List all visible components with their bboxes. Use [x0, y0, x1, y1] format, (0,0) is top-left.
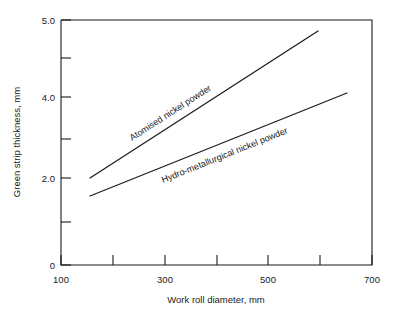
chart-figure: 5.0 4.0 2.0 0 100 300 500 700 Work roll …	[0, 0, 395, 312]
y-tick-label-4-0: 4.0	[42, 92, 55, 103]
y-tick-label-0: 0	[50, 260, 55, 271]
series-label-lower: Hydro-metallurgical nickel powder	[160, 125, 289, 184]
plot-frame	[61, 20, 372, 265]
y-tick-label-2-0: 2.0	[42, 173, 55, 184]
x-tick-label-700: 700	[364, 274, 380, 285]
y-axis-title: Green strip thickness, mm	[11, 87, 22, 197]
x-tick-label-100: 100	[53, 274, 69, 285]
x-axis-title: Work roll diameter, mm	[167, 294, 265, 305]
series-atomised-nickel-powder: Atomised nickel powder	[90, 31, 318, 178]
x-axis-ticks	[61, 255, 372, 265]
x-tick-label-500: 500	[260, 274, 276, 285]
series-label-upper: Atomised nickel powder	[128, 83, 213, 143]
x-axis-tick-labels: 100 300 500 700	[53, 274, 380, 285]
y-axis-ticks	[61, 20, 71, 265]
line-chart-canvas: 5.0 4.0 2.0 0 100 300 500 700 Work roll …	[0, 0, 395, 312]
series-hydro-metallurgical-nickel-powder: Hydro-metallurgical nickel powder	[90, 93, 347, 196]
series-line-lower	[90, 93, 347, 196]
y-tick-label-5-0: 5.0	[42, 15, 55, 26]
series-line-upper	[90, 31, 318, 178]
y-axis-tick-labels: 5.0 4.0 2.0 0	[42, 15, 55, 271]
x-tick-label-300: 300	[157, 274, 173, 285]
